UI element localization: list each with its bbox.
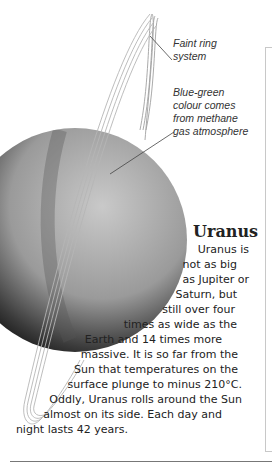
ring-caption: Faint ring system [173, 37, 217, 63]
body-line: as Jupiter or [182, 272, 249, 287]
caption-line: Blue-green [173, 86, 248, 99]
side-frame [265, 47, 272, 452]
bottom-rule [10, 461, 272, 462]
body-line: Saturn, but [175, 287, 237, 302]
body-line: Uranus is [198, 242, 249, 257]
ring-icon [140, 14, 158, 140]
body-line: Oddly, Uranus rolls around the Sun [49, 392, 242, 407]
body-line: almost on its side. Each day and [43, 407, 222, 422]
body-line: massive. It is so far from the [81, 347, 238, 362]
ring-pointer-line [150, 36, 172, 60]
article-title: Uranus [193, 222, 258, 241]
body-line: surface plunge to minus 210°C. [67, 377, 242, 392]
body-line: not as big [182, 257, 237, 272]
caption-line: Faint ring [173, 37, 217, 50]
atmosphere-caption: Blue-green colour comes from methane gas… [173, 86, 248, 138]
body-line: Earth and 14 times more [85, 332, 222, 347]
caption-line: system [173, 50, 217, 63]
caption-line: from methane [173, 112, 248, 125]
body-line: still over four [162, 302, 235, 317]
body-line: night lasts 42 years. [16, 422, 128, 437]
body-line: Sun that temperatures on the [74, 362, 238, 377]
caption-line: colour comes [173, 99, 248, 112]
body-line: times as wide as the [124, 317, 237, 332]
caption-line: gas atmosphere [173, 125, 248, 138]
